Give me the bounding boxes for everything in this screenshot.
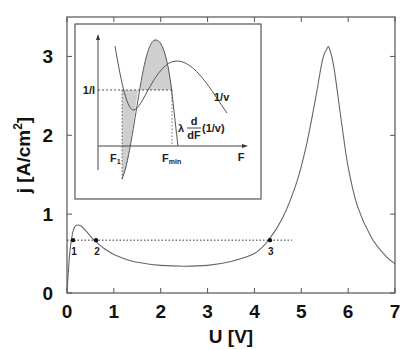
svg-text:j [A/cm2]: j [A/cm2] [11,117,34,194]
y-tick-label: 2 [42,125,53,146]
inset-1-over-v-label: 1/v [214,91,230,103]
x-axis-title: U [V] [209,326,253,347]
x-tick-label: 0 [62,301,73,322]
y-axis-title: j [A/cm2] [11,117,34,194]
operating-point-marker [71,238,75,242]
chart-canvas: 01234567 0123 U [V] j [A/cm2] 123 1/l [0,0,411,350]
operating-point-marker [268,238,272,242]
inset-frame [75,24,261,199]
operating-point-marker [94,238,98,242]
y-tick-label: 0 [42,283,53,304]
inset-level-label: 1/l [83,84,95,96]
y-axis-title-close: ] [13,117,34,123]
x-tick-label: 4 [249,301,260,322]
x-tick-label: 7 [390,301,401,322]
x-tick-label: 3 [202,301,213,322]
operating-point-label: 3 [268,246,274,257]
operating-points: 123 [71,238,274,257]
x-tick-label: 1 [109,301,120,322]
y-tick-label: 3 [42,46,53,67]
operating-point-label: 1 [71,246,77,257]
svg-text:λ: λ [178,122,184,134]
x-tick-label: 6 [343,301,354,322]
operating-point-label: 2 [94,246,100,257]
x-tick-label: 5 [296,301,307,322]
inset-diagram: 1/l 1/v F F1 Fmin λ d dF (1/v) [75,24,261,199]
y-tick-label: 1 [42,204,53,225]
svg-text:d: d [191,115,198,127]
x-tick-label: 2 [155,301,166,322]
svg-text:(1/v): (1/v) [202,122,225,134]
inset-x-axis-label: F [238,151,245,163]
svg-text:dF: dF [187,129,201,141]
y-axis-title-base: j [A/cm [13,130,34,194]
